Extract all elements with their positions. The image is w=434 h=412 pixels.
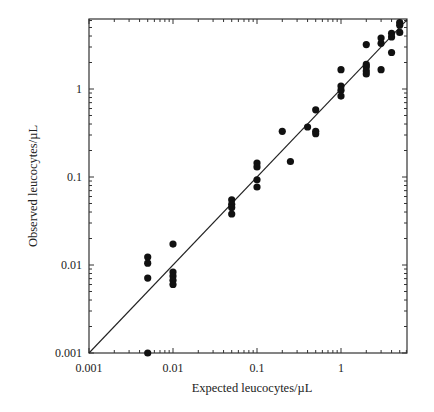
data-point — [363, 70, 370, 77]
data-point — [253, 163, 260, 170]
data-point — [396, 22, 403, 29]
data-point — [312, 106, 319, 113]
y-axis-title: Observed leucocytes/µL — [26, 125, 40, 247]
data-point — [144, 260, 151, 267]
data-point — [337, 93, 344, 100]
data-point — [279, 128, 286, 135]
x-tick-label: 1 — [338, 361, 344, 375]
data-point — [337, 66, 344, 73]
data-point — [253, 183, 260, 190]
data-point — [388, 49, 395, 56]
data-point — [304, 123, 311, 130]
data-point — [228, 204, 235, 211]
data-point — [287, 158, 294, 165]
identity-line — [89, 20, 407, 353]
x-axis-title: Expected leucocytes/µL — [192, 381, 313, 395]
x-axis-tick-labels: 0.0010.010.11 — [76, 361, 345, 375]
data-points — [144, 19, 403, 357]
x-tick-label: 0.1 — [250, 361, 265, 375]
y-tick-label: 0.001 — [55, 346, 82, 360]
data-point — [253, 176, 260, 183]
y-tick-label: 1 — [76, 82, 82, 96]
y-axis-tick-labels: 0.0010.010.11 — [55, 82, 82, 360]
scatter-chart: 0.0010.010.11 0.0010.010.11 Expected leu… — [0, 0, 434, 412]
data-point — [169, 240, 176, 247]
data-point — [312, 130, 319, 137]
data-point — [388, 33, 395, 40]
data-point — [228, 210, 235, 217]
x-tick-label: 0.001 — [76, 361, 103, 375]
y-tick-label: 0.1 — [67, 170, 82, 184]
y-tick-label: 0.01 — [61, 258, 82, 272]
data-point — [144, 274, 151, 281]
data-point — [396, 29, 403, 36]
data-point — [363, 41, 370, 48]
data-point — [169, 281, 176, 288]
data-point — [144, 349, 151, 356]
x-tick-label: 0.01 — [163, 361, 184, 375]
data-point — [377, 40, 384, 47]
data-point — [377, 66, 384, 73]
